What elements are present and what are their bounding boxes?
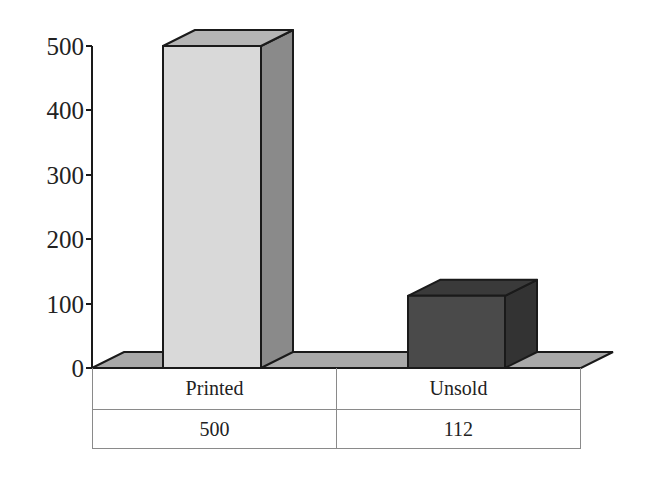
data-table-header-row: Printed Unsold: [93, 368, 581, 410]
value-unsold: 112: [337, 410, 581, 449]
y-tick-label: 200: [4, 227, 84, 252]
bar-unsold: [408, 280, 537, 368]
y-tick-label: 500: [4, 34, 84, 59]
data-table: Printed Unsold 500 112: [92, 368, 581, 449]
category-label-unsold: Unsold: [337, 368, 581, 410]
y-tick-label: 400: [4, 98, 84, 123]
value-printed: 500: [93, 410, 337, 449]
y-tick-label: 300: [4, 163, 84, 188]
y-tick-label: 100: [4, 292, 84, 317]
y-tick-label: 0: [4, 356, 84, 381]
bar-printed: [163, 30, 293, 368]
data-table-value-row: 500 112: [93, 410, 581, 449]
category-label-printed: Printed: [93, 368, 337, 410]
